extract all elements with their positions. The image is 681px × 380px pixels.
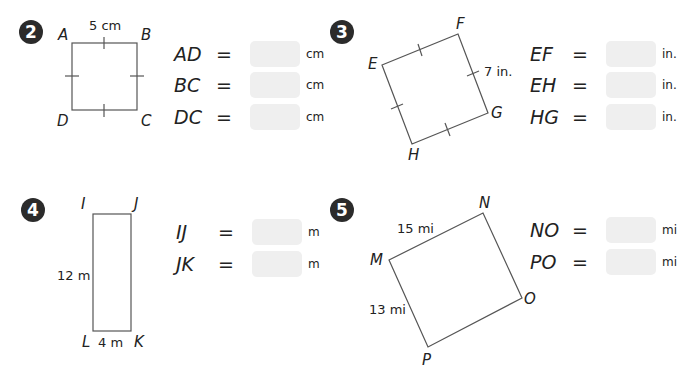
unit-label: mi xyxy=(662,255,677,269)
vertex-label-o: O xyxy=(524,290,536,308)
unit-label: mi xyxy=(662,223,677,237)
problem-5-tilted-rectangle-figure xyxy=(0,0,681,380)
measure-label-15mi: 15 mi xyxy=(397,221,434,236)
equation-lhs: PO xyxy=(530,251,572,273)
vertex-label-p: P xyxy=(422,351,431,369)
equals-sign: = xyxy=(572,251,606,273)
answer-box-po[interactable] xyxy=(606,249,656,275)
vertex-label-n: N xyxy=(479,194,490,212)
measure-label-13mi: 13 mi xyxy=(369,302,406,317)
answer-box-no[interactable] xyxy=(606,217,656,243)
vertex-label-m: M xyxy=(370,251,383,269)
equation-row-po: PO = mi xyxy=(530,248,677,276)
equation-lhs: NO xyxy=(530,219,572,241)
equals-sign: = xyxy=(572,219,606,241)
equation-row-no: NO = mi xyxy=(530,216,677,244)
